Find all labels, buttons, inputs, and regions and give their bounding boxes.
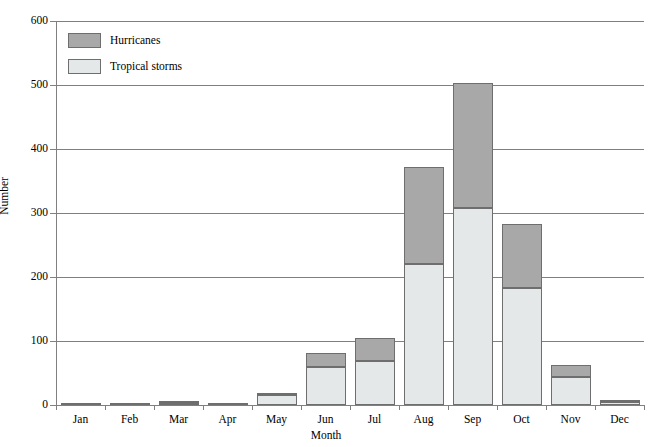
x-tick-label-nov: Nov <box>546 413 595 426</box>
x-tick-label-apr: Apr <box>203 413 252 426</box>
legend-item-tropical-storms[interactable]: Tropical storms <box>68 53 182 79</box>
x-tick-10 <box>546 405 547 410</box>
bar-segment-tropical-storms-jun[interactable] <box>306 367 346 405</box>
legend-swatch-tropical-storms <box>68 59 101 74</box>
y-tick-label-600: 600 <box>0 15 48 26</box>
bar-apr[interactable] <box>208 21 248 405</box>
x-tick-end <box>644 405 645 410</box>
chart-legend: HurricanesTropical storms <box>68 27 182 79</box>
x-tick-label-jul: Jul <box>350 413 399 426</box>
x-tick-7 <box>399 405 400 410</box>
y-tick-label-100: 100 <box>0 335 48 346</box>
x-tick-9 <box>497 405 498 410</box>
bar-segment-hurricanes-may[interactable] <box>257 393 297 395</box>
bar-jun[interactable] <box>306 21 346 405</box>
bar-aug[interactable] <box>404 21 444 405</box>
bar-segment-tropical-storms-mar[interactable] <box>159 403 199 405</box>
bar-segment-hurricanes-nov[interactable] <box>551 365 591 377</box>
bar-segment-tropical-storms-apr[interactable] <box>208 403 248 405</box>
bar-jul[interactable] <box>355 21 395 405</box>
legend-label: Hurricanes <box>110 34 160 46</box>
y-tick-label-0: 0 <box>0 399 48 410</box>
x-axis-title: Month <box>0 429 652 441</box>
x-tick-8 <box>448 405 449 410</box>
x-tick-5 <box>301 405 302 410</box>
bar-may[interactable] <box>257 21 297 405</box>
bar-segment-tropical-storms-may[interactable] <box>257 395 297 405</box>
x-tick-label-oct: Oct <box>497 413 546 426</box>
x-tick-label-may: May <box>252 413 301 426</box>
bar-segment-tropical-storms-feb[interactable] <box>110 403 150 405</box>
legend-swatch-hurricanes <box>68 33 101 48</box>
x-tick-2 <box>154 405 155 410</box>
bar-segment-hurricanes-jul[interactable] <box>355 338 395 360</box>
x-tick-11 <box>595 405 596 410</box>
x-tick-6 <box>350 405 351 410</box>
x-tick-label-mar: Mar <box>154 413 203 426</box>
bar-segment-tropical-storms-aug[interactable] <box>404 264 444 405</box>
bar-segment-hurricanes-aug[interactable] <box>404 167 444 264</box>
bar-sep[interactable] <box>453 21 493 405</box>
bar-segment-tropical-storms-dec[interactable] <box>600 402 640 405</box>
bar-segment-tropical-storms-jul[interactable] <box>355 361 395 405</box>
bar-dec[interactable] <box>600 21 640 405</box>
x-tick-label-sep: Sep <box>448 413 497 426</box>
y-tick-label-300: 300 <box>0 207 48 218</box>
bar-segment-hurricanes-mar[interactable] <box>159 401 199 403</box>
x-tick-3 <box>203 405 204 410</box>
x-tick-4 <box>252 405 253 410</box>
bar-nov[interactable] <box>551 21 591 405</box>
x-tick-label-feb: Feb <box>105 413 154 426</box>
stacked-bar-chart: Number 0100200300400500600 JanFebMarAprM… <box>0 0 652 447</box>
bar-segment-hurricanes-dec[interactable] <box>600 400 640 403</box>
x-tick-label-jan: Jan <box>56 413 105 426</box>
x-tick-label-dec: Dec <box>595 413 644 426</box>
bar-segment-tropical-storms-nov[interactable] <box>551 377 591 405</box>
legend-item-hurricanes[interactable]: Hurricanes <box>68 27 182 53</box>
legend-label: Tropical storms <box>110 60 182 72</box>
x-tick-label-jun: Jun <box>301 413 350 426</box>
x-tick-1 <box>105 405 106 410</box>
bar-segment-hurricanes-sep[interactable] <box>453 83 493 208</box>
x-tick-0 <box>56 405 57 410</box>
y-tick-label-400: 400 <box>0 143 48 154</box>
bar-segment-hurricanes-jun[interactable] <box>306 353 346 368</box>
bar-oct[interactable] <box>502 21 542 405</box>
y-tick-label-500: 500 <box>0 79 48 90</box>
bar-segment-hurricanes-oct[interactable] <box>502 224 542 288</box>
y-tick-label-200: 200 <box>0 271 48 282</box>
bar-segment-tropical-storms-jan[interactable] <box>61 403 101 405</box>
bar-segment-tropical-storms-oct[interactable] <box>502 288 542 405</box>
bar-segment-tropical-storms-sep[interactable] <box>453 208 493 405</box>
x-tick-label-aug: Aug <box>399 413 448 426</box>
